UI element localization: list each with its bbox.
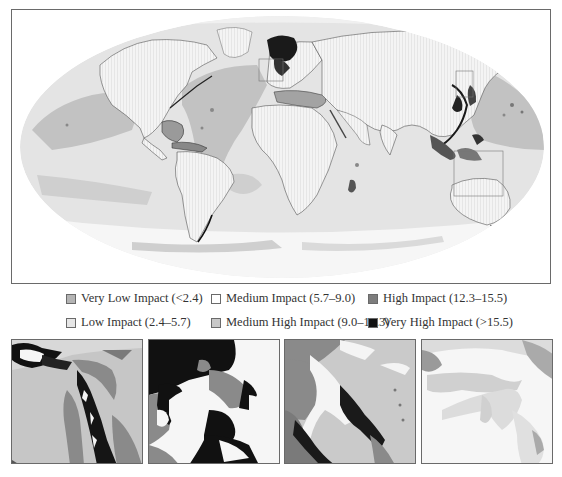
world-map-svg <box>12 10 552 285</box>
medium-high-swatch <box>211 318 221 328</box>
legend-label: Medium High Impact (9.0–12.3) <box>226 315 390 330</box>
high-swatch <box>368 294 378 304</box>
inset-caribbean-eastern-us <box>284 339 416 464</box>
impact-legend: Very Low Impact (<2.4) Low Impact (2.4–5… <box>66 291 506 335</box>
medium-swatch <box>211 294 221 304</box>
legend-label: High Impact (12.3–15.5) <box>383 291 507 306</box>
global-impact-map <box>11 9 551 284</box>
very-high-swatch <box>368 318 378 328</box>
legend-label: Low Impact (2.4–5.7) <box>81 315 191 330</box>
legend-label: Medium Impact (5.7–9.0) <box>226 291 355 306</box>
globe <box>12 10 552 285</box>
legend-item-medium: Medium Impact (5.7–9.0) <box>211 291 355 306</box>
inset-north-sea <box>148 339 280 464</box>
low-swatch <box>66 318 76 328</box>
inset-japan-east-china-sea <box>11 339 143 464</box>
very-low-swatch <box>66 294 76 304</box>
legend-item-medium-high: Medium High Impact (9.0–12.3) <box>211 315 390 330</box>
inset-coral-triangle <box>421 339 553 464</box>
legend-item-very-low: Very Low Impact (<2.4) <box>66 291 203 306</box>
legend-item-low: Low Impact (2.4–5.7) <box>66 315 191 330</box>
legend-item-high: High Impact (12.3–15.5) <box>368 291 507 306</box>
legend-label: Very High Impact (>15.5) <box>383 315 513 330</box>
legend-label: Very Low Impact (<2.4) <box>81 291 203 306</box>
legend-item-very-high: Very High Impact (>15.5) <box>368 315 513 330</box>
